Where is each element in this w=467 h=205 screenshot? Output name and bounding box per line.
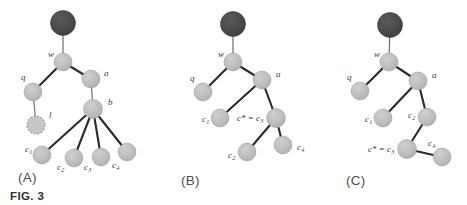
tree-node [65,149,83,167]
tree-node [118,143,136,161]
tree-diagram-svg: wqlabc1c2c3c4wqac1c* = c3c2c4wqac1c2c* =… [0,0,467,205]
panel-label-a: (A) [18,170,37,185]
tree-node [33,146,51,164]
tree-node-label: b [108,97,113,107]
tree-node [351,82,369,100]
tree-node-label: q [21,72,26,82]
edges-layer [33,23,442,158]
tree-node [54,53,72,71]
tree-node-label: q [190,73,195,83]
tree-node-label: a [104,68,109,78]
tree-node [253,71,271,89]
tree-node-label: w [48,49,54,59]
tree-node-root [221,12,246,37]
tree-node-label: c1 [365,114,372,125]
tree-node-label: c2 [228,150,235,161]
tree-node [380,53,398,71]
tree-node-label: a [276,69,281,79]
tree-node-root [378,13,403,38]
tree-node-label: c4 [428,138,435,149]
tree-node [238,143,256,161]
tree-node-label: w [218,49,224,59]
tree-node [84,100,103,119]
tree-node-dashed [27,116,45,134]
tree-node-label: c1 [25,144,32,155]
tree-node [211,109,229,127]
tree-node-label: a [432,70,437,80]
tree-node-label: c* = c3 [237,113,263,124]
tree-node [224,53,242,71]
tree-node [274,136,292,154]
tree-node-label: c4 [112,160,119,171]
tree-node-label: c4 [297,142,304,153]
panel-label-b: (B) [181,173,200,188]
tree-node [194,83,212,101]
figure-caption: FIG. 3 [10,190,44,202]
tree-node-label: q [347,72,352,82]
tree-node-label: c1 [202,114,209,125]
tree-node [267,109,286,128]
tree-node [374,109,392,127]
tree-node [92,148,110,166]
tree-node-label: c2 [408,110,415,121]
tree-node-label: w [374,49,380,59]
tree-node [418,108,436,126]
tree-node-label: l [49,110,52,120]
tree-node-label: c2 [57,162,64,173]
tree-node [24,83,42,101]
tree-node [398,140,417,159]
tree-node-root [51,11,76,36]
tree-node [433,148,451,166]
tree-node-label: c* = c3 [368,144,394,155]
tree-node [82,70,100,88]
tree-node [409,72,427,90]
panel-label-c: (C) [346,173,366,188]
figure-container: wqlabc1c2c3c4wqac1c* = c3c2c4wqac1c2c* =… [0,0,467,205]
tree-node-label: c3 [84,162,91,173]
